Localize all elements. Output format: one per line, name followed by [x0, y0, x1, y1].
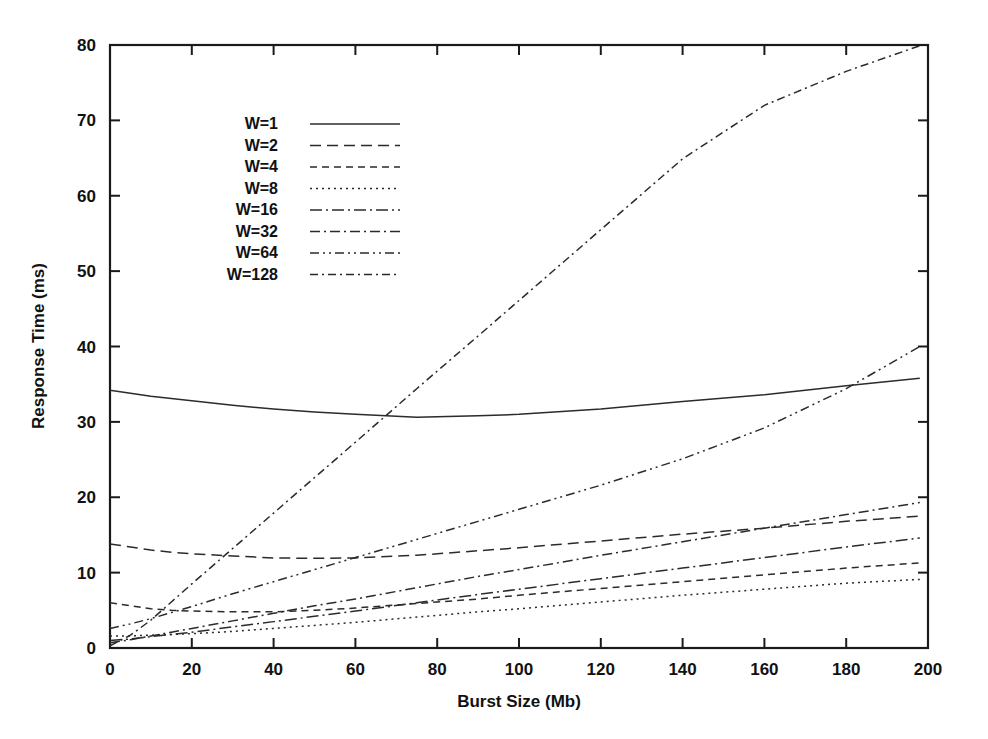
legend: W=1W=2W=4W=8W=16W=32W=64W=128 [227, 115, 400, 283]
y-tick-label: 80 [77, 36, 96, 55]
legend-label-w-2: W=2 [245, 137, 278, 154]
y-tick-label: 40 [77, 338, 96, 357]
y-tick-label: 30 [77, 413, 96, 432]
plot-frame [110, 45, 928, 648]
series-line-w-16 [110, 538, 920, 641]
legend-label-w-4: W=4 [245, 158, 278, 175]
chart-figure: 020406080100120140160180200 010203040506… [0, 0, 988, 739]
y-tick-label: 20 [77, 488, 96, 507]
x-tick-label: 160 [750, 660, 778, 679]
x-tick-label: 100 [505, 660, 533, 679]
y-tick-label: 60 [77, 187, 96, 206]
legend-label-w-8: W=8 [245, 180, 278, 197]
x-axis-ticks [110, 45, 928, 648]
x-axis-tick-labels: 020406080100120140160180200 [105, 660, 942, 679]
series-line-w-2 [110, 516, 920, 558]
legend-label-w-16: W=16 [236, 201, 278, 218]
series-lines [110, 46, 920, 646]
x-tick-label: 20 [182, 660, 201, 679]
y-tick-label: 0 [87, 639, 96, 658]
x-tick-label: 120 [587, 660, 615, 679]
x-tick-label: 80 [428, 660, 447, 679]
y-axis-ticks [110, 45, 928, 648]
x-tick-label: 0 [105, 660, 114, 679]
x-tick-label: 180 [832, 660, 860, 679]
y-axis-title: Response Time (ms) [29, 263, 48, 429]
legend-label-w-32: W=32 [236, 223, 278, 240]
legend-label-w-64: W=64 [236, 244, 278, 261]
y-tick-label: 50 [77, 262, 96, 281]
y-tick-label: 70 [77, 111, 96, 130]
legend-label-w-1: W=1 [245, 115, 278, 132]
x-tick-label: 200 [914, 660, 942, 679]
line-chart: 020406080100120140160180200 010203040506… [0, 0, 988, 739]
x-tick-label: 140 [668, 660, 696, 679]
x-tick-label: 60 [346, 660, 365, 679]
legend-label-w-128: W=128 [227, 266, 278, 283]
series-line-w-1 [110, 378, 920, 417]
y-tick-label: 10 [77, 564, 96, 583]
x-axis-title: Burst Size (Mb) [457, 692, 581, 711]
y-axis-tick-labels: 01020304050607080 [77, 36, 96, 658]
series-line-w-8 [110, 579, 920, 636]
x-tick-label: 40 [264, 660, 283, 679]
